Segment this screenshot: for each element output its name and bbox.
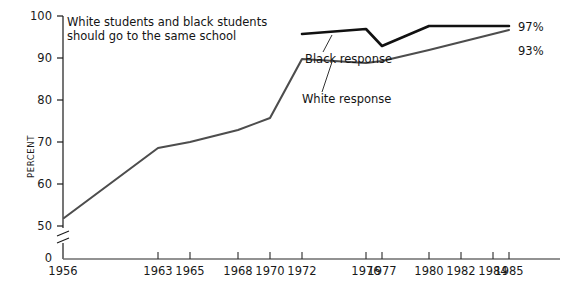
x-tick-label-1977: 1977 xyxy=(360,265,404,279)
y-tick-label-80: 80 xyxy=(22,94,52,108)
chart-title-line-1: White students and black students xyxy=(67,16,267,30)
leader-line-black-response xyxy=(323,35,332,52)
y-axis-break-mark-lower xyxy=(57,238,69,243)
y-tick-label-60: 60 xyxy=(22,178,52,192)
chart-container: 100 90 80 70 60 50 0 PERCENT 1956 1963 1… xyxy=(0,0,566,293)
chart-plot-svg xyxy=(0,0,566,293)
value-label-black-response: 97% xyxy=(518,21,544,35)
x-tick-label-1965: 1965 xyxy=(168,265,212,279)
series-line-black-response xyxy=(302,26,509,46)
x-tick-label-1985: 1985 xyxy=(487,265,531,279)
x-tick-label-1972: 1972 xyxy=(280,265,324,279)
chart-title-line-2: should go to the same school xyxy=(67,30,236,44)
x-tick-label-1956: 1956 xyxy=(41,265,85,279)
value-label-white-response: 93% xyxy=(518,45,544,59)
y-tick-label-90: 90 xyxy=(22,52,52,66)
series-annotation-black-response: Black response xyxy=(305,53,392,67)
y-axis-title: PERCENT xyxy=(26,135,36,178)
series-annotation-white-response: White response xyxy=(302,93,391,107)
y-axis-break-mark-upper xyxy=(57,231,69,236)
y-tick-label-100: 100 xyxy=(22,10,52,24)
y-tick-label-50: 50 xyxy=(22,220,52,234)
series-line-white-response xyxy=(64,30,509,218)
